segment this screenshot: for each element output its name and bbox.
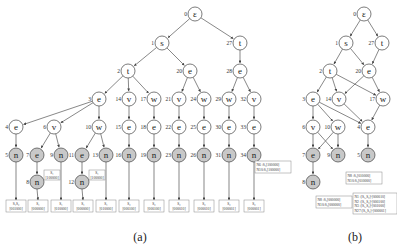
tree-edge (317, 77, 326, 92)
tree-node-1: s1 (151, 36, 169, 50)
svg-text:S₁: S₁ (59, 202, 62, 206)
node-index: 10 (86, 124, 92, 130)
tree-node-27: t27 (369, 36, 390, 50)
tree-node-20: e20 (356, 64, 377, 78)
tree-node-19: n19 (141, 148, 162, 162)
tree-a: S₁S₂[001000]S₁[000000]S₁[010000]S₁[00000… (5, 7, 264, 212)
svg-text:N8 :S₁[010000]: N8 :S₁[010000] (348, 174, 371, 178)
tree-node-11: e11 (69, 148, 89, 162)
tree-node-1: s1 (335, 36, 353, 50)
tree-edge (86, 133, 95, 148)
node-label: v (337, 94, 342, 104)
node-index: 32 (241, 96, 247, 102)
node-label: n (177, 150, 182, 160)
node-label: ε (362, 9, 366, 19)
tree-node-16: n16 (116, 148, 137, 162)
node-index: 18 (141, 124, 147, 130)
svg-text:[001000]: [001000] (9, 207, 22, 211)
tree-edge (318, 132, 333, 149)
node-index: 29 (216, 96, 222, 102)
node-index: 20 (356, 68, 362, 74)
node-label: n (127, 150, 132, 160)
leaf-box: S₁S₂[001000] (6, 200, 26, 212)
tree-node-4: e4 (5, 120, 23, 134)
annotation-box: N8 :S₁[010000]N10:S₁[010000] (346, 172, 382, 184)
annotation-box: N1 :[S₁,S₂]-[000010]N2 :[S₁,S₂]-[000100]… (353, 193, 397, 214)
node-label: v (52, 122, 57, 132)
node-index: 3 (302, 96, 305, 102)
node-label: e (311, 150, 315, 160)
tree-node-28: e28 (227, 64, 248, 78)
node-index: 27 (227, 40, 233, 46)
node-index: 11 (69, 152, 75, 158)
node-label: n (152, 150, 157, 160)
node-index: 31 (216, 152, 222, 158)
tree-b: N6 :S₁[100000]N10:S₁[100000]N8 :S₁[00000… (255, 7, 397, 214)
node-index: 23 (166, 152, 172, 158)
node-label: s (344, 38, 348, 48)
node-index: 30 (216, 124, 222, 130)
leaf-box: S₂[000100] (119, 200, 139, 212)
tree-node-10: w10 (325, 120, 346, 134)
tree-node-8: n8 (302, 175, 320, 189)
node-index: 27 (369, 40, 375, 46)
leaf-box: S₂[000100] (144, 200, 164, 212)
node-label: n (35, 177, 40, 187)
node-label: e (188, 66, 192, 76)
svg-text:N10:S₁[010000]: N10:S₁[010000] (348, 179, 372, 183)
svg-text:N10:S₁[000000]: N10:S₁[000000] (318, 203, 342, 207)
tree-node-5: n5 (357, 148, 375, 162)
tree-node-7: e7 (302, 148, 320, 162)
tree-edge (61, 103, 93, 123)
side-box: S₁[100000] (44, 170, 60, 180)
tree-edge (232, 78, 238, 92)
node-index: 10 (325, 124, 331, 130)
node-label: n (252, 150, 257, 160)
tree-node-5: n5 (5, 148, 23, 162)
tree-edge (105, 76, 123, 94)
node-label: v (127, 94, 132, 104)
leaf-box: S₂[000010] (194, 200, 214, 212)
node-index: 1 (335, 40, 338, 46)
tree-node-18: e18 (141, 120, 162, 134)
svg-text:[100000]: [100000] (45, 176, 58, 180)
node-label: e (366, 122, 370, 132)
node-index: 7 (26, 152, 29, 158)
svg-text:[010000]: [010000] (99, 207, 112, 211)
node-index: 28 (227, 68, 233, 74)
node-index: 16 (116, 152, 122, 158)
leaf-box: S₁[010000] (51, 200, 71, 212)
tree-edge (182, 78, 188, 92)
svg-text:S₁: S₁ (81, 202, 84, 206)
node-index: 24 (191, 96, 197, 102)
svg-text:[000010]: [000010] (197, 207, 210, 211)
node-label: w (201, 94, 208, 104)
tree-node-17: w17 (370, 92, 391, 106)
node-label: w (335, 122, 342, 132)
side-box: S₁[100000] (89, 170, 105, 180)
node-index: 4 (5, 124, 8, 130)
caption-b: (b) (348, 230, 362, 244)
node-label: e (127, 122, 131, 132)
tree-edge (167, 48, 184, 65)
node-label: e (97, 94, 101, 104)
node-label: e (238, 66, 242, 76)
svg-text:N10:S₁[100000]: N10:S₁[100000] (257, 168, 281, 172)
tree-node-31: n31 (216, 148, 237, 162)
node-label: e (311, 94, 315, 104)
node-label: w (380, 94, 387, 104)
leaf-box: S₂[000010] (169, 200, 189, 212)
tree-node-34: n34 (241, 148, 262, 162)
node-index: 20 (177, 68, 183, 74)
node-label: ε (193, 9, 197, 19)
tree-node-6: v6 (43, 120, 61, 134)
svg-text:[100000]: [100000] (90, 176, 103, 180)
node-label: n (336, 150, 341, 160)
node-index: 26 (191, 152, 197, 158)
node-label: v (311, 122, 316, 132)
tree-edge (201, 18, 233, 39)
svg-text:[000001]: [000001] (247, 207, 260, 211)
tree-edge (332, 78, 336, 92)
tree-edge (101, 134, 104, 147)
node-label: e (227, 122, 231, 132)
